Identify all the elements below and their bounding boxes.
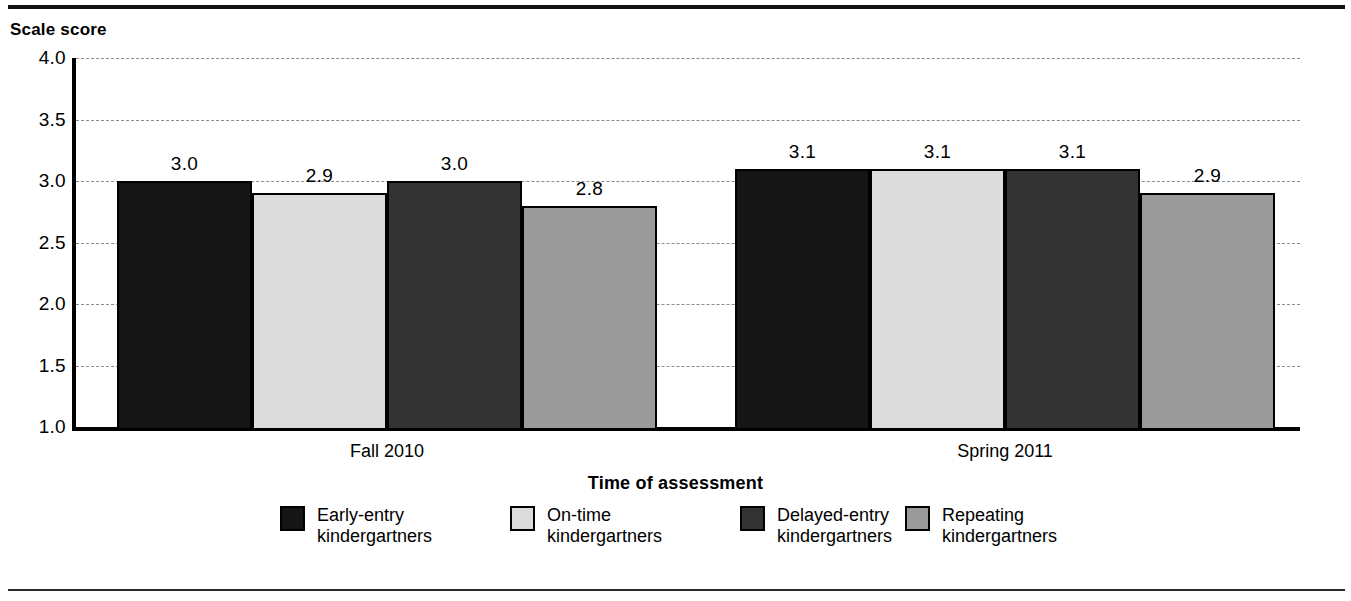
bar [387,181,522,430]
bar-value-label: 3.0 [171,153,198,175]
legend-swatch-icon [740,506,765,531]
x-axis-title: Time of assessment [0,473,1351,494]
bar-value-label: 3.1 [789,141,816,163]
legend-item[interactable]: Early-entry kindergartners [280,505,432,547]
bottom-divider-rule [8,589,1345,591]
y-tick-label: 3.0 [10,170,66,192]
bar [1140,193,1275,430]
x-category-label: Fall 2010 [350,441,424,462]
legend-label: Early-entry kindergartners [317,505,432,547]
legend-swatch-icon [510,506,535,531]
gridline [76,58,1300,59]
y-axis-line [72,58,76,430]
plot-area: 3.02.93.02.83.13.13.12.9 [72,58,1300,430]
legend-item[interactable]: On-time kindergartners [510,505,662,547]
y-tick-label: 2.0 [10,293,66,315]
bar-value-label: 2.9 [1194,165,1221,187]
legend-label: Repeating kindergartners [942,505,1057,547]
bar-value-label: 3.1 [1059,141,1086,163]
y-tick-label: 2.5 [10,232,66,254]
y-axis-tick-labels: 4.03.53.02.52.01.51.0 [0,58,66,430]
bar-value-label: 2.8 [576,178,603,200]
chart-legend: Early-entry kindergartnersOn-time kinder… [0,505,1351,565]
legend-swatch-icon [280,506,305,531]
top-divider-rule [8,5,1345,9]
legend-label: Delayed-entry kindergartners [777,505,892,547]
bar [117,181,252,430]
bar [522,206,657,430]
y-axis-title: Scale score [10,20,107,40]
legend-label: On-time kindergartners [547,505,662,547]
legend-swatch-icon [905,506,930,531]
y-tick-label: 1.5 [10,355,66,377]
bar-value-label: 2.9 [306,165,333,187]
bar [1005,169,1140,430]
bar [735,169,870,430]
legend-item[interactable]: Repeating kindergartners [905,505,1057,547]
x-category-label: Spring 2011 [957,441,1053,462]
y-tick-label: 1.0 [10,416,66,438]
bar-value-label: 3.1 [924,141,951,163]
bar [870,169,1005,430]
legend-item[interactable]: Delayed-entry kindergartners [740,505,892,547]
y-tick-label: 3.5 [10,109,66,131]
y-tick-label: 4.0 [10,47,66,69]
gridline [76,120,1300,121]
bar-value-label: 3.0 [441,153,468,175]
chart-figure: Scale score 4.03.53.02.52.01.51.0 3.02.9… [0,0,1351,601]
bar [252,193,387,430]
